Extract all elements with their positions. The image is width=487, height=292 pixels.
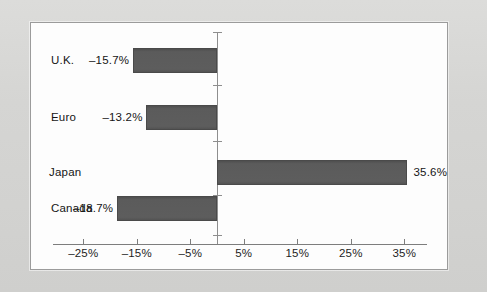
zero-axis-tick (213, 235, 222, 236)
x-axis-tick (83, 239, 84, 245)
zero-axis-tick (213, 141, 222, 142)
category-label-euro: Euro (51, 111, 76, 123)
x-axis-tick (404, 239, 405, 245)
zero-axis-tick (213, 32, 222, 33)
bar-canada (117, 196, 217, 221)
bar-uk (133, 48, 217, 73)
bar-japan (217, 160, 407, 185)
bar-value-label: 35.6% (413, 166, 447, 178)
x-axis-line (53, 244, 427, 245)
chart-plot-area: –25%–15%–5%5%15%25%35%–15.7%U.K.–13.2%Eu… (31, 23, 447, 269)
x-axis-tick-label: –25% (68, 247, 98, 259)
x-axis-tick (244, 239, 245, 245)
category-label-canada: Canada (51, 202, 92, 214)
bar-value-label: –13.2% (102, 111, 142, 123)
category-label-uk: U.K. (51, 54, 74, 66)
x-axis-tick-label: 25% (339, 247, 363, 259)
bar-euro (146, 105, 217, 130)
x-axis-tick (190, 239, 191, 245)
x-axis-tick (351, 239, 352, 245)
chart-panel: –25%–15%–5%5%15%25%35%–15.7%U.K.–13.2%Eu… (30, 22, 448, 270)
zero-axis-tick (213, 85, 222, 86)
x-axis-tick-label: 5% (235, 247, 252, 259)
bar-value-label: –15.7% (89, 54, 129, 66)
zero-axis-line (217, 32, 218, 244)
x-axis-tick (137, 239, 138, 245)
x-axis-tick (297, 239, 298, 245)
x-axis-tick-label: 35% (392, 247, 416, 259)
x-axis-tick-label: –5% (178, 247, 202, 259)
x-axis-tick-label: 15% (285, 247, 309, 259)
x-axis-tick-label: –15% (122, 247, 152, 259)
category-label-japan: Japan (49, 166, 81, 178)
